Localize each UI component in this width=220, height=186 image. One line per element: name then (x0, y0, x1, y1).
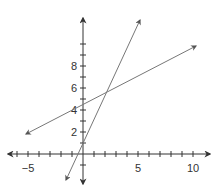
coordinate-plane: −5 5 10 2 4 6 8 (0, 0, 220, 186)
y-tick-label-2: 2 (71, 126, 77, 138)
y-tick-label-6: 6 (71, 82, 77, 94)
line-steep (66, 20, 140, 180)
y-tick-label-8: 8 (71, 60, 77, 72)
x-tick-label-10: 10 (187, 162, 199, 174)
line-shallow (26, 46, 196, 134)
x-tick-label-5: 5 (135, 162, 141, 174)
x-tick-label-neg5: −5 (22, 162, 35, 174)
